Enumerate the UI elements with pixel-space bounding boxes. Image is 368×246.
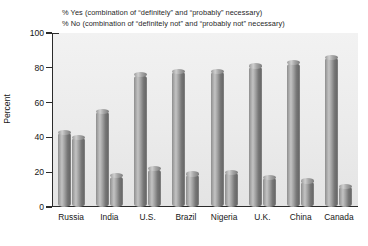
y-axis-tick-label: 20 <box>18 167 44 177</box>
bar-brazil-yes <box>172 71 185 207</box>
legend-item-no: % No (combination of “definitely not” an… <box>62 19 362 30</box>
bar-group <box>90 33 128 207</box>
bar-nigeria-yes <box>211 71 224 207</box>
y-axis-title: Percent <box>2 94 12 124</box>
x-axis-label-us: U.S. <box>129 212 167 222</box>
bar-top-ellipse <box>339 184 352 189</box>
bar-uk-yes <box>249 66 262 207</box>
bar-india-yes <box>96 111 109 207</box>
bar-uk-no <box>263 177 276 207</box>
bar-top-ellipse <box>110 173 123 178</box>
bar-china-yes <box>287 63 300 207</box>
bar-top-ellipse <box>148 166 161 171</box>
bar-top-ellipse <box>172 69 185 74</box>
y-axis-tick-label: 40 <box>18 132 44 142</box>
bar-us-yes <box>134 75 147 207</box>
bar-top-ellipse <box>186 171 199 176</box>
bar-top-ellipse <box>263 175 276 180</box>
bar-russia-no <box>72 137 85 207</box>
y-axis-tick-label: 0 <box>18 202 44 212</box>
bar-group <box>243 33 281 207</box>
x-axis-label-canada: Canada <box>320 212 358 222</box>
legend-item-yes: % Yes (combination of “definitely” and “… <box>62 8 362 19</box>
bar-top-ellipse <box>211 69 224 74</box>
bar-canada-no <box>339 186 352 207</box>
bar-top-ellipse <box>72 135 85 140</box>
y-axis-tick-label: 100 <box>18 28 44 38</box>
bar-group <box>205 33 243 207</box>
bar-china-no <box>301 181 314 207</box>
bar-group <box>282 33 320 207</box>
bar-group <box>52 33 90 207</box>
bar-india-no <box>110 176 123 207</box>
bar-top-ellipse <box>134 72 147 77</box>
bar-russia-yes <box>58 132 71 207</box>
bar-top-ellipse <box>225 170 238 175</box>
x-axis-label-brazil: Brazil <box>167 212 205 222</box>
bar-us-no <box>148 169 161 207</box>
bar-top-ellipse <box>287 60 300 65</box>
y-axis-tick-label: 60 <box>18 98 44 108</box>
bars-layer <box>52 33 358 207</box>
bar-nigeria-no <box>225 172 238 207</box>
bar-group <box>320 33 358 207</box>
bar-brazil-no <box>186 174 199 207</box>
bar-chart: % Yes (combination of “definitely” and “… <box>0 0 368 246</box>
x-axis-label-china: China <box>282 212 320 222</box>
bar-group <box>129 33 167 207</box>
bar-top-ellipse <box>58 130 71 135</box>
x-axis-label-uk: U.K. <box>243 212 281 222</box>
bar-canada-yes <box>325 57 338 207</box>
bar-top-ellipse <box>249 63 262 68</box>
chart-legend: % Yes (combination of “definitely” and “… <box>62 8 362 29</box>
y-axis-tick-label: 80 <box>18 63 44 73</box>
x-axis-label-nigeria: Nigeria <box>205 212 243 222</box>
x-axis-label-india: India <box>90 212 128 222</box>
bar-top-ellipse <box>301 178 314 183</box>
x-axis-label-russia: Russia <box>52 212 90 222</box>
bar-top-ellipse <box>96 109 109 114</box>
bar-top-ellipse <box>325 55 338 60</box>
bar-group <box>167 33 205 207</box>
